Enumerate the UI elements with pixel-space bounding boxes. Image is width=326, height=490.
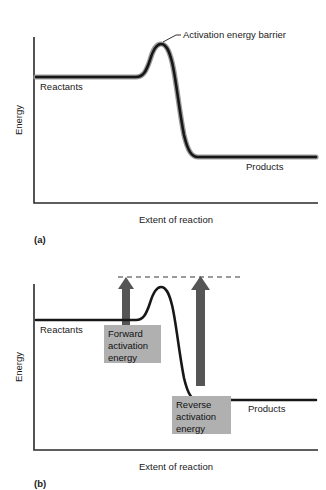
figure-canvas: Reactants Products Activation energy bar…	[0, 0, 326, 490]
energy-diagram-figure: Reactants Products Activation energy bar…	[0, 0, 326, 490]
background	[0, 0, 326, 490]
panel-a-caption: (a)	[34, 234, 46, 245]
panel-b-reactants-label: Reactants	[40, 324, 83, 335]
panel-b-products-label: Products	[248, 403, 286, 414]
reverse-activation-energy-label: Reverse activation energy	[172, 396, 231, 434]
panel-b-caption: (b)	[34, 478, 46, 489]
forward-label-line-2: activation	[108, 340, 148, 351]
panel-a-barrier-label: Activation energy barrier	[183, 29, 286, 40]
reverse-label-line-1: Reverse	[176, 399, 211, 410]
reverse-label-line-2: activation	[176, 411, 216, 422]
panel-a-yaxis-label: Energy	[13, 105, 24, 135]
reverse-label-line-3: energy	[176, 423, 205, 434]
forward-label-line-1: Forward	[108, 328, 143, 339]
panel-a-products-label: Products	[246, 161, 284, 172]
forward-label-line-3: energy	[108, 352, 137, 363]
panel-a-reactants-label: Reactants	[40, 81, 83, 92]
forward-arrow-shaft	[122, 285, 130, 330]
forward-activation-energy-label: Forward activation energy	[104, 325, 161, 363]
panel-b-xaxis-label: Extent of reaction	[139, 461, 213, 472]
reverse-arrow-shaft	[196, 285, 205, 386]
panel-a-xaxis-label: Extent of reaction	[139, 214, 213, 225]
panel-b-yaxis-label: Energy	[13, 352, 24, 382]
